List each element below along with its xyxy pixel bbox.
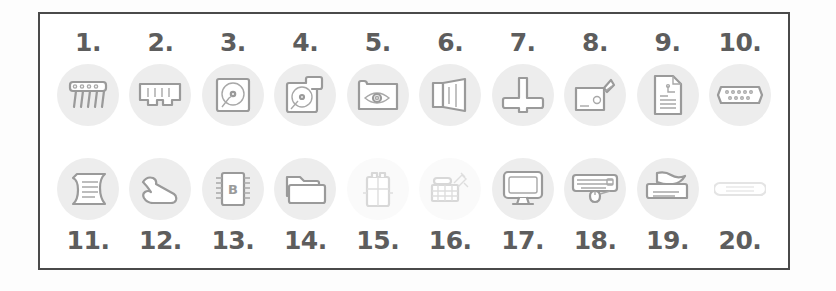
item-number-6: 6. [437, 30, 463, 55]
item-number-4: 4. [292, 30, 318, 55]
item-number-3: 3. [220, 30, 246, 55]
bios-chip-icon[interactable]: B [202, 158, 264, 220]
speaker-icon[interactable] [419, 64, 481, 126]
item-cell-16[interactable]: 16. [416, 158, 484, 253]
item-cell-14[interactable]: 14. [271, 158, 339, 253]
item-cell-17[interactable]: 17. [489, 158, 557, 253]
wrench-tool-icon[interactable] [129, 158, 191, 220]
item-number-16: 16. [429, 228, 472, 253]
document-page-icon[interactable] [637, 64, 699, 126]
item-number-11: 11. [67, 228, 110, 253]
item-cell-9[interactable]: 9. [634, 30, 702, 126]
item-number-1: 1. [75, 30, 101, 55]
item-number-10: 10. [719, 30, 762, 55]
scroll-document-icon[interactable] [57, 158, 119, 220]
item-cell-12[interactable]: 12. [126, 158, 194, 253]
item-number-14: 14. [284, 228, 327, 253]
expansion-card-icon[interactable] [419, 158, 481, 220]
cpu-cooler-icon[interactable] [492, 64, 554, 126]
item-cell-13[interactable]: 13. B [199, 158, 267, 253]
item-number-13: 13. [211, 228, 254, 253]
serial-port-icon[interactable] [709, 64, 771, 126]
item-cell-1[interactable]: 1. [54, 30, 122, 126]
worksheet-frame: 1. 2. [38, 12, 790, 270]
keyboard-mouse-icon[interactable] [564, 158, 626, 220]
item-number-7: 7. [510, 30, 536, 55]
icon-row-top: 1. 2. [40, 14, 788, 142]
item-number-17: 17. [501, 228, 544, 253]
resistor-network-icon[interactable] [57, 64, 119, 126]
item-cell-19[interactable]: 19. [634, 158, 702, 253]
item-cell-7[interactable]: 7. [489, 30, 557, 126]
item-cell-10[interactable]: 10. [706, 30, 774, 126]
folder-icon[interactable] [274, 158, 336, 220]
item-number-18: 18. [574, 228, 617, 253]
ram-module-icon[interactable] [129, 64, 191, 126]
item-cell-18[interactable]: 18. [561, 158, 629, 253]
item-cell-11[interactable]: 11. [54, 158, 122, 253]
item-cell-8[interactable]: 8. [561, 30, 629, 126]
item-number-19: 19. [646, 228, 689, 253]
item-cell-20[interactable]: 20. [706, 158, 774, 253]
item-cell-2[interactable]: 2. [126, 30, 194, 126]
item-number-12: 12. [139, 228, 182, 253]
item-cell-5[interactable]: 5. [344, 30, 412, 126]
item-cell-3[interactable]: 3. [199, 30, 267, 126]
item-number-8: 8. [582, 30, 608, 55]
battery-cell-icon[interactable] [347, 158, 409, 220]
power-supply-icon[interactable] [564, 64, 626, 126]
item-cell-6[interactable]: 6. [416, 30, 484, 126]
item-cell-4[interactable]: 4. [271, 30, 339, 126]
item-number-20: 20. [719, 228, 762, 253]
item-number-15: 15. [356, 228, 399, 253]
webcam-eye-icon[interactable] [347, 64, 409, 126]
item-number-5: 5. [365, 30, 391, 55]
printer-icon[interactable] [637, 158, 699, 220]
monitor-icon[interactable] [492, 158, 554, 220]
cable-connector-icon[interactable] [709, 158, 771, 220]
floppy-drive-icon[interactable] [274, 64, 336, 126]
item-number-2: 2. [147, 30, 173, 55]
item-cell-15[interactable]: 15. [344, 158, 412, 253]
icon-row-bottom: 11. 12. 13. [40, 142, 788, 268]
svg-text:B: B [228, 182, 238, 197]
hard-disk-icon[interactable] [202, 64, 264, 126]
item-number-9: 9. [655, 30, 681, 55]
